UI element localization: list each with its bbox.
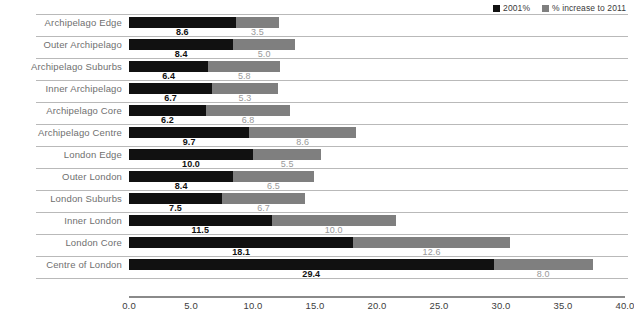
- category-label: Inner Archipelago: [0, 83, 122, 94]
- chart-row: Centre of London29.48.0: [0, 256, 634, 278]
- plot-area: Archipelago Edge8.63.5Outer Archipelago8…: [0, 14, 634, 289]
- chart-row: Inner London11.510.0: [0, 212, 634, 234]
- category-label: Archipelago Suburbs: [0, 61, 122, 72]
- bar-segment[interactable]: [129, 171, 233, 182]
- chart-row: London Suburbs7.56.7: [0, 190, 634, 212]
- gridline: [36, 212, 628, 213]
- gridline: [36, 80, 628, 81]
- chart-row: Inner Archipelago6.75.3: [0, 80, 634, 102]
- bar-segment[interactable]: [212, 83, 278, 94]
- bar-segment[interactable]: [233, 171, 314, 182]
- x-axis-tick-label: 0.0: [122, 300, 136, 311]
- chart-row: Outer London8.46.5: [0, 168, 634, 190]
- legend-swatch-icon: [493, 5, 500, 12]
- bar-segment[interactable]: [129, 61, 208, 72]
- bar-segment[interactable]: [208, 61, 280, 72]
- bar-segment[interactable]: [129, 17, 236, 28]
- gridline: [36, 278, 628, 279]
- gridline: [36, 146, 628, 147]
- legend-entry[interactable]: % increase to 2011: [542, 3, 626, 13]
- x-axis-tick-label: 15.0: [305, 300, 324, 311]
- category-label: Archipelago Centre: [0, 127, 122, 138]
- gridline: [36, 14, 628, 15]
- stacked-bar[interactable]: [129, 171, 314, 182]
- legend-label: % increase to 2011: [552, 3, 626, 13]
- stacked-bar[interactable]: [129, 17, 279, 28]
- bar-segment[interactable]: [494, 259, 593, 270]
- gridline: [36, 190, 628, 191]
- bar-segment[interactable]: [129, 193, 222, 204]
- bar-segment[interactable]: [236, 17, 279, 28]
- stacked-bar[interactable]: [129, 193, 305, 204]
- gridline: [36, 102, 628, 103]
- chart-legend: 2001%% increase to 2011: [493, 3, 626, 13]
- category-label: London Edge: [0, 149, 122, 160]
- legend-label: 2001%: [503, 3, 530, 13]
- stacked-bar[interactable]: [129, 61, 280, 72]
- bar-segment[interactable]: [353, 237, 509, 248]
- gridline: [36, 58, 628, 59]
- stacked-bar[interactable]: [129, 39, 295, 50]
- legend-swatch-icon: [542, 5, 549, 12]
- gridline: [36, 36, 628, 37]
- category-label: Inner London: [0, 215, 122, 226]
- gridline: [36, 124, 628, 125]
- x-axis-tick-label: 40.0: [615, 300, 634, 311]
- chart-row: Archipelago Suburbs6.45.8: [0, 58, 634, 80]
- x-axis-tick-label: 10.0: [243, 300, 262, 311]
- stacked-bar[interactable]: [129, 237, 510, 248]
- bar-segment[interactable]: [129, 237, 353, 248]
- chart-row: Outer Archipelago8.45.0: [0, 36, 634, 58]
- x-axis-tick-label: 35.0: [553, 300, 572, 311]
- bar-segment[interactable]: [129, 127, 249, 138]
- x-axis-tick-label: 5.0: [184, 300, 198, 311]
- bar-segment[interactable]: [129, 39, 233, 50]
- gridline: [36, 168, 628, 169]
- bar-segment[interactable]: [253, 149, 321, 160]
- stacked-bar[interactable]: [129, 83, 278, 94]
- x-axis-tick-label: 20.0: [367, 300, 386, 311]
- bar-segment[interactable]: [129, 149, 253, 160]
- chart-row: Archipelago Edge8.63.5: [0, 14, 634, 36]
- chart-row: Archipelago Centre9.78.6: [0, 124, 634, 146]
- gridline: [36, 256, 628, 257]
- bar-segment[interactable]: [129, 83, 212, 94]
- chart-row: London Core18.112.6: [0, 234, 634, 256]
- gridline: [36, 234, 628, 235]
- x-axis-tick-label: 25.0: [429, 300, 448, 311]
- stacked-bar[interactable]: [129, 259, 593, 270]
- bar-segment[interactable]: [129, 259, 494, 270]
- x-axis-line: [129, 296, 625, 298]
- stacked-bar[interactable]: [129, 215, 396, 226]
- bar-segment[interactable]: [129, 105, 206, 116]
- x-axis-tick-label: 30.0: [491, 300, 510, 311]
- bar-segment[interactable]: [222, 193, 305, 204]
- category-label: Archipelago Core: [0, 105, 122, 116]
- bar-segment[interactable]: [206, 105, 290, 116]
- bar-segment[interactable]: [129, 215, 272, 226]
- category-label: London Core: [0, 237, 122, 248]
- legend-entry[interactable]: 2001%: [493, 3, 530, 13]
- stacked-bar-chart: 2001%% increase to 2011 Archipelago Edge…: [0, 0, 634, 317]
- stacked-bar[interactable]: [129, 127, 356, 138]
- category-label: Centre of London: [0, 259, 122, 270]
- category-label: Outer London: [0, 171, 122, 182]
- chart-row: London Edge10.05.5: [0, 146, 634, 168]
- category-label: Outer Archipelago: [0, 39, 122, 50]
- category-label: London Suburbs: [0, 193, 122, 204]
- bar-segment[interactable]: [272, 215, 396, 226]
- stacked-bar[interactable]: [129, 149, 321, 160]
- stacked-bar[interactable]: [129, 105, 290, 116]
- chart-row: Archipelago Core6.26.8: [0, 102, 634, 124]
- bar-segment[interactable]: [249, 127, 356, 138]
- bar-segment[interactable]: [233, 39, 295, 50]
- category-label: Archipelago Edge: [0, 17, 122, 28]
